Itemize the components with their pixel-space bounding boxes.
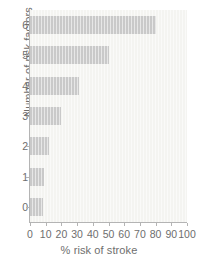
- bar-2: [30, 137, 49, 155]
- x-tick-mark-70: [140, 223, 141, 226]
- x-tick-mark-20: [61, 223, 62, 226]
- x-tick-mark-30: [77, 223, 78, 226]
- x-axis-tick-labels: 0102030405060708090100: [0, 227, 198, 241]
- y-tick-mark-4: [26, 86, 29, 87]
- bar-1: [30, 168, 44, 186]
- bar-chart-figure: Number of risk factors 0123456 010203040…: [0, 0, 198, 264]
- x-tick-label-100: 100: [176, 227, 198, 241]
- x-tick-mark-50: [109, 223, 110, 226]
- bar-5: [30, 46, 109, 64]
- y-tick-mark-5: [26, 55, 29, 56]
- bar-6: [30, 16, 156, 34]
- x-tick-mark-90: [171, 223, 172, 226]
- y-tick-mark-2: [26, 146, 29, 147]
- y-tick-mark-1: [26, 177, 29, 178]
- y-tick-mark-3: [26, 116, 29, 117]
- bar-0: [30, 198, 43, 216]
- y-axis-line: [29, 10, 30, 223]
- plot-area: [30, 10, 187, 222]
- y-tick-mark-0: [26, 207, 29, 208]
- x-axis-title: % risk of stroke: [0, 244, 198, 256]
- x-tick-mark-60: [124, 223, 125, 226]
- x-tick-mark-80: [156, 223, 157, 226]
- y-tick-mark-6: [26, 25, 29, 26]
- bar-3: [30, 107, 61, 125]
- x-tick-mark-0: [30, 223, 31, 226]
- bar-4: [30, 77, 79, 95]
- x-tick-mark-100: [187, 223, 188, 226]
- x-tick-mark-40: [93, 223, 94, 226]
- x-tick-mark-10: [46, 223, 47, 226]
